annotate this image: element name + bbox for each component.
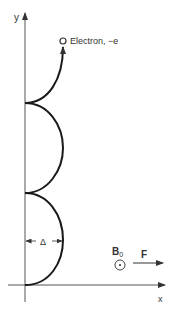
x-axis-label: x — [158, 294, 163, 304]
field-label: B0 — [112, 246, 123, 258]
y-axis-label: y — [14, 12, 19, 23]
delta-dimension: Δ — [26, 237, 62, 247]
field-out-of-page-icon — [115, 260, 125, 270]
delta-label: Δ — [40, 237, 46, 247]
force-label: F — [141, 249, 147, 260]
trajectory-arc-3 — [25, 47, 63, 103]
electron-marker-icon — [60, 38, 66, 44]
trajectory — [25, 47, 63, 285]
electron-label: Electron, −e — [70, 36, 118, 46]
trajectory-arc-2 — [25, 103, 63, 193]
cycloid-diagram: y x Electron, −e Δ B0 F — [0, 0, 176, 315]
